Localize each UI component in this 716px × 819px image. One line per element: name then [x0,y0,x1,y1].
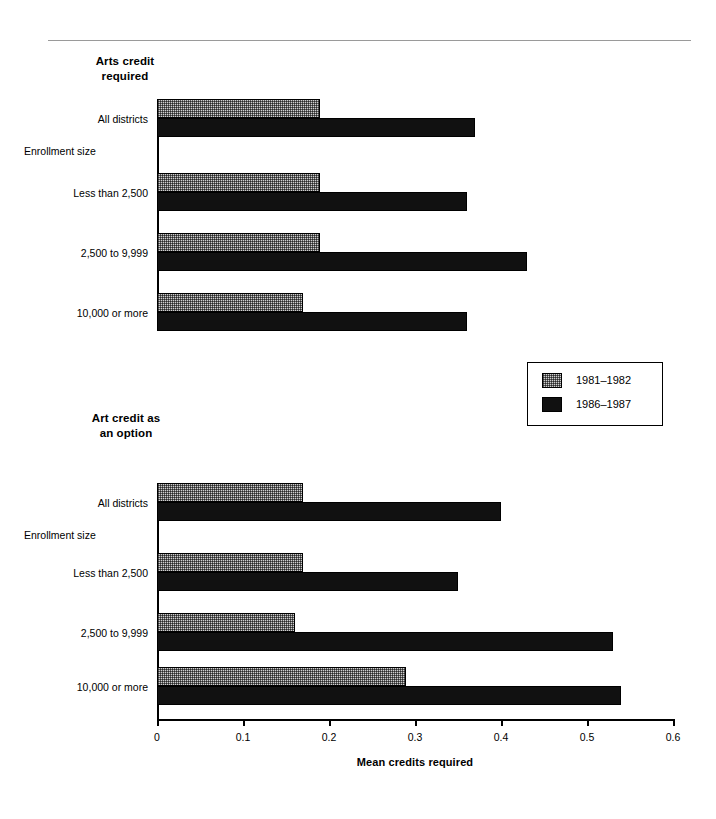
bar-1981-1982 [157,99,320,118]
bar-1986-1987 [157,312,467,331]
category-label: All districts [24,497,148,509]
bar-1986-1987 [157,192,467,211]
category-label: Enrollment size [24,145,96,157]
bar-1986-1987 [157,502,501,521]
bar-1981-1982 [157,233,320,252]
bar-1981-1982 [157,173,320,192]
category-label: 10,000 or more [24,307,148,319]
x-axis-tick-label: 0.4 [481,731,521,743]
panel-title-top: Arts credit required [60,54,190,84]
bar-1986-1987 [157,252,527,271]
x-axis-tick [587,719,589,726]
x-axis-tick-label: 0 [137,731,177,743]
category-label: Enrollment size [24,529,96,541]
category-label: Less than 2,500 [24,187,148,199]
category-label: All districts [24,113,148,125]
panel-title-bottom: Art credit as an option [56,411,196,441]
bar-1986-1987 [157,686,621,705]
x-axis-tick [673,719,675,726]
bar-1981-1982 [157,667,406,686]
chart-panel-arts-credit-required: All districtsEnrollment sizeLess than 2,… [0,88,716,338]
x-axis-tick [243,719,245,726]
legend-swatch-1986-1987-icon [542,397,562,412]
x-axis-tick-label: 0.1 [223,731,263,743]
x-axis-tick-label: 0.3 [395,731,435,743]
header-divider [48,40,691,41]
category-label: Less than 2,500 [24,567,148,579]
bar-1981-1982 [157,483,303,502]
category-label: 2,500 to 9,999 [24,627,148,639]
bar-1981-1982 [157,553,303,572]
bar-1986-1987 [157,572,458,591]
bar-1981-1982 [157,613,295,632]
chart-panel-art-credit-as-an-option: All districtsEnrollment sizeLess than 2,… [0,470,716,740]
x-axis-tick [157,719,159,726]
bar-1986-1987 [157,118,475,137]
x-axis-tick [415,719,417,726]
legend: 1981–1982 1986–1987 [527,362,663,426]
category-label: 2,500 to 9,999 [24,247,148,259]
legend-label-1981-1982: 1981–1982 [576,374,631,386]
chart-page: Arts credit required All districtsEnroll… [0,0,716,819]
bar-1986-1987 [157,632,613,651]
x-axis-tick-label: 0.5 [567,731,607,743]
bar-1981-1982 [157,293,303,312]
legend-swatch-1981-1982-icon [542,373,562,388]
legend-label-1986-1987: 1986–1987 [576,398,631,410]
x-axis-tick [501,719,503,726]
x-axis-tick-label: 0.2 [309,731,349,743]
category-label: 10,000 or more [24,681,148,693]
x-axis-tick [329,719,331,726]
x-axis-title: Mean credits required [295,756,535,768]
x-axis-tick-label: 0.6 [653,731,693,743]
